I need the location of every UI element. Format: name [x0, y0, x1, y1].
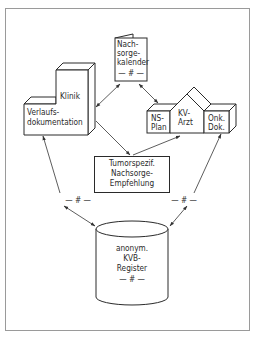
- edge-klinik-tumor: [96, 121, 130, 155]
- node-klinik: Klinik Verlaufs- dokumentation: [24, 63, 95, 135]
- edge-kalender-nsplan: [139, 84, 158, 103]
- register-line1: anonym.: [116, 243, 148, 253]
- nsplan-line2: Plan: [151, 122, 167, 132]
- edge-klinik-kalender: [96, 84, 120, 107]
- tumor-line2: Nachsorge-: [111, 168, 153, 178]
- diagram-canvas: — # — — # — Klinik Verlaufs- dokumentati…: [0, 0, 256, 337]
- edge-onkdok-register-upper: [194, 134, 221, 193]
- edge-klinik-register-upper: [43, 136, 60, 193]
- edge-mark-left: — # —: [65, 195, 91, 205]
- node-nachsorgekalender: Nach- sorge- kalender — # —: [115, 34, 150, 81]
- register-line3: Register: [117, 263, 148, 273]
- kalender-mark: — # —: [118, 68, 144, 78]
- edge-onkdok-register-lower: [170, 206, 187, 226]
- tumor-line1: Tumorspezif.: [108, 158, 155, 168]
- register-line2: KVB-: [123, 253, 141, 263]
- node-tumorspezif-empfehlung: Tumorspezif. Nachsorge- Empfehlung: [95, 157, 170, 193]
- node-kvb-register: anonym. KVB- Register — # —: [96, 221, 168, 305]
- onkdok-line2: Dok.: [208, 122, 225, 132]
- kvarzt-line2: Arzt: [178, 117, 193, 127]
- edge-mark-right: — # —: [171, 195, 197, 205]
- edge-tumor-kvarzt: [133, 136, 180, 155]
- node-practice-building: NS- Plan KV- Arzt Onk. Dok.: [147, 87, 236, 133]
- klinik-line1: Verlaufs-: [27, 107, 60, 117]
- register-mark: — # —: [119, 274, 145, 284]
- kalender-line3: kalender: [117, 57, 150, 67]
- edge-klinik-register-lower: [64, 206, 95, 226]
- klinik-line2: dokumentation: [27, 117, 83, 127]
- tumor-line3: Empfehlung: [110, 178, 155, 188]
- klinik-title: Klinik: [60, 91, 81, 101]
